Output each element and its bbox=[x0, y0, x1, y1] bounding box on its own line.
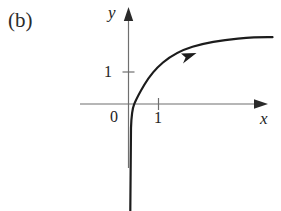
y-tick-label-1: 1 bbox=[104, 63, 112, 80]
curve-direction-arrowhead bbox=[181, 53, 197, 63]
log-curve bbox=[130, 37, 272, 211]
y-axis-label: y bbox=[108, 4, 116, 22]
plot-canvas bbox=[0, 0, 281, 211]
y-axis-arrowhead bbox=[124, 7, 133, 21]
x-tick-label-1: 1 bbox=[154, 109, 162, 126]
origin-label: 0 bbox=[110, 108, 118, 125]
x-axis-arrowhead bbox=[254, 99, 268, 108]
x-axis-label: x bbox=[260, 110, 268, 128]
figure-panel: (b) y x 0 1 1 bbox=[0, 0, 281, 211]
